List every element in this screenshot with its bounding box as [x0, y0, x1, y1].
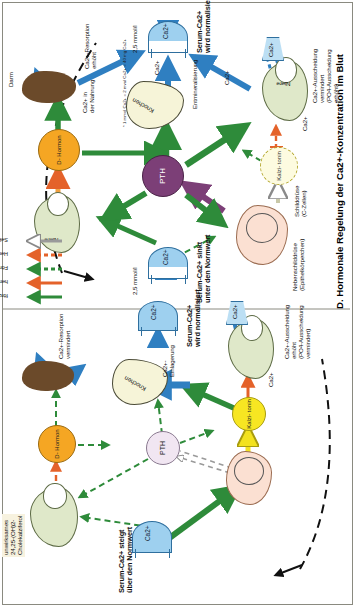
flask-label-panel-c: Ca2+: [232, 304, 239, 319]
serum-beaker-left-panel-d: Ca2+: [148, 247, 188, 279]
d-hormon-panel-d: D- Hormon: [38, 129, 80, 171]
bone-storage-label-panel-c: Ca2+- Einlagerung: [162, 345, 176, 377]
beaker-label-top-panel-c: Ca2+: [144, 526, 151, 541]
figure-canvas: unwirksames 24,25-(OH)2- Cholekalziferol…: [0, 0, 353, 609]
gut-resorption-label-panel-c: Ca2+-Resorption vermindert: [58, 314, 72, 359]
level-label-top-panel-d: 2,5 mmol/l: [132, 267, 139, 295]
kidney-ca-label-panel-d: Ca2+: [224, 70, 231, 85]
legend-arrows: [10, 181, 90, 301]
parathyroid-label-panel-d: Nebenschilddrüse (Epithelkörperchen): [292, 239, 306, 291]
d-hormon-panel-c: D- Hormon: [38, 425, 76, 463]
thyroid-rings-panel-c: [234, 457, 264, 485]
pth-panel-d: PTH: [142, 155, 184, 197]
figure-footnote: * 1 mmol Ca2+ = 2 mval Ca2+ = 40 mg Ca2+: [122, 39, 127, 127]
kidney-bottom-label-panel-d: Niere: [276, 80, 290, 87]
serum-beaker-right-panel-d: Ca2+: [148, 21, 188, 53]
kidney-excretion-label-panel-c: Ca2+-Ausscheidung erhöht (PO4-Ausscheidu…: [284, 305, 312, 359]
demineralisation-label-panel-d: Entmineralisierung: [192, 60, 199, 109]
legend-item-foerdert: fördert: [0, 293, 8, 299]
thyroid-label-panel-d: Schilddrüse (C-Zellen): [294, 186, 308, 217]
state-label-panel-d: Serum-Ca2+ sinkt unter den Normwert: [196, 235, 213, 303]
serum-beaker-top-panel-c: Ca2+: [132, 521, 172, 553]
legend-item-sekretion: Sekretion: [0, 237, 8, 243]
kidney-note-panel-c: unwirksames 24,25-(OH)2- Cholekalziferol: [2, 514, 25, 557]
level-label-right-panel-d: 2,5 mmol/l: [132, 25, 139, 53]
bone-ca-label-panel-d: Ca2+: [154, 60, 161, 75]
flask-label-panel-d: Ca2+: [268, 42, 275, 57]
gut-resorption-label-panel-d: Ca2+-Resorption erhöht: [84, 24, 98, 69]
food-ca-label-panel-d: Ca2+ in der Nahrung: [82, 80, 96, 113]
kalzitonin-panel-c: Kalzi- tonin: [232, 397, 266, 431]
figure-title: D. Hormonale Regelung der Ca2+-Konzentra…: [334, 54, 345, 309]
kidney-ca-label-panel-c: Ca2+: [268, 372, 275, 387]
legend-item-foerderung-fehlt: Förderung fehlt: [0, 265, 8, 271]
thyroid-rings-panel-d: [246, 213, 278, 243]
figure-page: unwirksames 24,25-(OH)2- Cholekalziferol…: [0, 0, 353, 609]
serum-beaker-bottom-panel-c: Ca2+: [138, 301, 178, 331]
pth-panel-c: PTH: [146, 431, 180, 465]
gut-label-panel-d: Darm: [8, 72, 15, 87]
result-label-panel-d: Serum-Ca2+ wird normalisiert: [196, 0, 213, 53]
beaker-label-right-panel-d: Ca2+: [162, 24, 169, 39]
state-label-panel-c: Serum-Ca2+ steigt über den Normwert: [118, 527, 135, 593]
renal-ca-label-panel-d: Ca2+: [302, 116, 309, 131]
gut-panel-c: [22, 361, 74, 391]
beaker-label-left-panel-d: Ca2+: [162, 250, 169, 265]
legend-item-hemmt: hemmt: [0, 279, 8, 285]
beaker-label-bottom-panel-c: Ca2+: [150, 305, 157, 320]
kalzitonin-panel-d: Kalzi- tonin: [260, 147, 298, 185]
gut-panel-d: [22, 71, 76, 103]
legend-item-hemmung-fehlt: Hemmung fehlt: [0, 251, 8, 257]
